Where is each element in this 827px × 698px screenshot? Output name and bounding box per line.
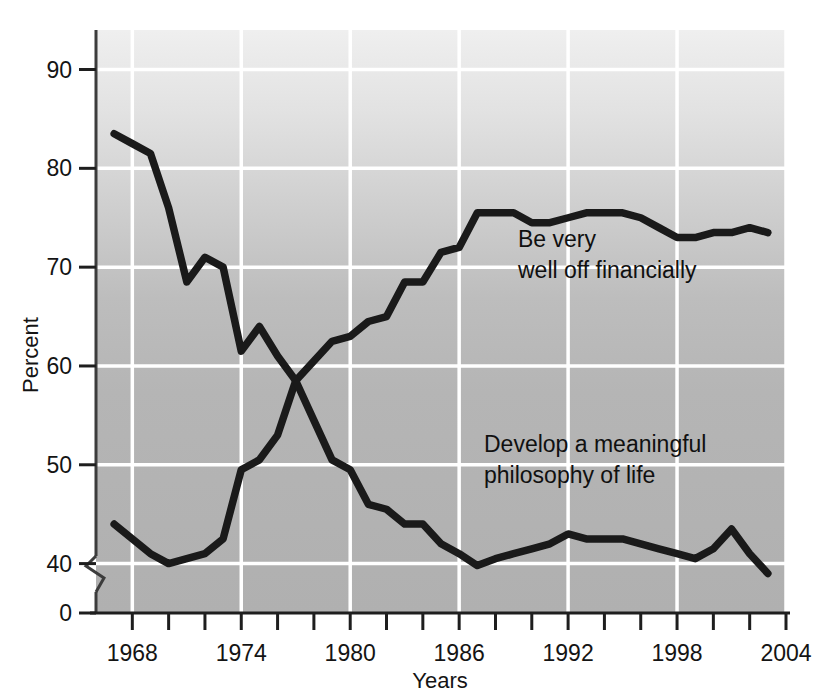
y-tick-label: 70 [46,254,72,280]
y-tick-label: 90 [46,57,72,83]
x-tick-label: 1986 [434,640,485,666]
y-tick-label: 80 [46,155,72,181]
plot-area-background [96,30,786,613]
y-origin-tick-label: 0 [59,600,72,626]
be-very-well-off-label-line1: Be very [518,226,596,252]
y-tick-label: 50 [46,452,72,478]
x-axis-title: Years [412,668,467,693]
y-tick-label: 40 [46,551,72,577]
be-very-well-off-label-line2: well off financially [517,257,697,283]
x-tick-label: 1968 [107,640,158,666]
x-tick-label: 1992 [543,640,594,666]
chart-figure: 405060708090 0 1968197419801986199219982… [0,0,827,698]
develop-philosophy-label-line1: Develop a meaningful [484,431,706,457]
develop-philosophy-label-line2: philosophy of life [484,462,655,488]
x-tick-label: 1974 [216,640,267,666]
line-chart-svg: 405060708090 0 1968197419801986199219982… [0,0,827,698]
y-axis-title: Percent [18,317,43,393]
x-tick-label: 2004 [760,640,811,666]
x-tick-label: 1980 [325,640,376,666]
x-tick-label: 1998 [651,640,702,666]
y-tick-label: 60 [46,353,72,379]
